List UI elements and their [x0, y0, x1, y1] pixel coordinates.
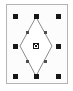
handle-bottom-left[interactable] [13, 74, 18, 79]
handle-bottom-center[interactable] [34, 74, 39, 79]
vector-scene[interactable] [0, 0, 73, 91]
node-upper-left[interactable] [26, 31, 29, 34]
handle-bottom-right[interactable] [56, 74, 61, 79]
node-lower-right[interactable] [44, 60, 47, 63]
handle-top-left[interactable] [13, 14, 18, 19]
drawing-canvas[interactable] [0, 0, 73, 91]
handle-top-right[interactable] [56, 14, 61, 19]
handle-middle-left[interactable] [13, 44, 18, 49]
handle-middle-right[interactable] [56, 44, 61, 49]
handle-top-center[interactable] [34, 14, 39, 19]
node-upper-right[interactable] [44, 31, 47, 34]
node-lower-left[interactable] [26, 60, 29, 63]
